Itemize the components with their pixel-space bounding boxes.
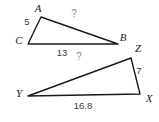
side-length-ab-unknown: ?	[71, 9, 77, 19]
side-length-ca: 5	[24, 17, 29, 27]
similar-triangles-figure: A B C 5 ? 13 Z X Y 7 ? 16.8	[0, 0, 159, 122]
vertex-label-y: Y	[16, 88, 22, 99]
triangle-abc-outline	[28, 17, 118, 44]
side-length-yx: 16.8	[74, 101, 93, 111]
triangle-xyz-outline	[28, 58, 140, 96]
vertex-label-c: C	[15, 35, 22, 46]
vertex-label-b: B	[120, 32, 127, 43]
side-length-yz-unknown: ?	[76, 52, 82, 62]
vertex-label-x: X	[146, 93, 153, 104]
vertex-label-z: Z	[135, 43, 141, 54]
side-length-zx: 7	[136, 66, 141, 76]
vertex-label-a: A	[35, 3, 42, 14]
side-length-cb: 13	[57, 48, 68, 58]
